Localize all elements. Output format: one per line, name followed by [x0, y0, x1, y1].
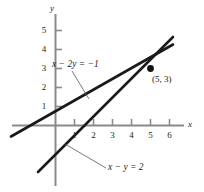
x-tick-label-6: 6: [165, 131, 175, 140]
leader-line-equation-two: [65, 144, 106, 168]
y-tick-label-2: 2: [39, 83, 49, 92]
intersection-point-label: (5, 3): [152, 75, 172, 84]
x-tick-label-3: 3: [108, 131, 118, 140]
x-tick-label-2: 2: [89, 131, 99, 140]
line-graph-figure: y x 1 2 3 4 5 1 2 3 4 5 6 x − 2y = −1 x …: [0, 0, 204, 192]
line-x-minus-y-equals-2: [38, 37, 173, 172]
y-tick-label-4: 4: [39, 45, 49, 54]
x-axis-label: x: [188, 120, 192, 129]
equation-label-two: x − y = 2: [108, 163, 144, 173]
y-tick-label-3: 3: [39, 64, 49, 73]
x-tick-label-1: 1: [70, 131, 80, 140]
y-axis-label: y: [50, 4, 54, 13]
y-tick-label-5: 5: [39, 26, 49, 35]
y-tick-label-1: 1: [39, 102, 49, 111]
leader-line-equation-one: [72, 71, 89, 99]
intersection-point-marker: [147, 65, 154, 72]
x-tick-label-5: 5: [146, 131, 156, 140]
equation-label-one: x − 2y = −1: [52, 60, 99, 70]
plot-canvas: [0, 0, 204, 192]
x-tick-label-4: 4: [127, 131, 137, 140]
